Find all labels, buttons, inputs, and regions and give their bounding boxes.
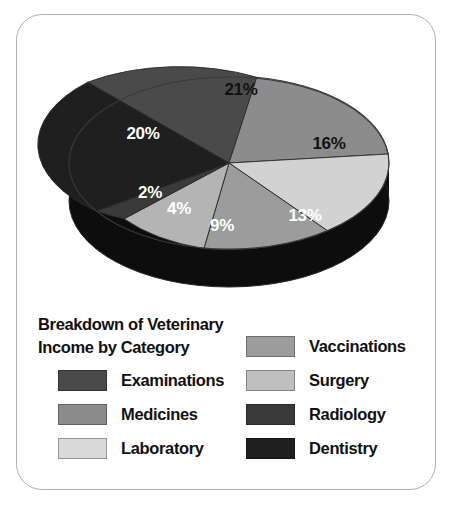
chart-title-line-2: Income by Category: [38, 336, 253, 359]
pie-label-examinations: 20%: [126, 124, 159, 143]
legend-item-laboratory[interactable]: Laboratory: [58, 431, 224, 465]
chart-title: Breakdown of Veterinary Income by Catego…: [38, 313, 253, 360]
pie-label-dentistry: 2%: [138, 183, 162, 202]
legend-swatch-examinations: [58, 370, 107, 391]
legend-label-medicines: Medicines: [121, 405, 198, 424]
legend-swatch-vaccinations: [246, 336, 295, 357]
legend-item-medicines[interactable]: Medicines: [58, 397, 224, 431]
legend-item-dentistry[interactable]: Dentistry: [246, 431, 406, 465]
pie-chart: 21% 16% 13% 9% 4% 2% 20%: [17, 15, 436, 305]
legend-item-radiology[interactable]: Radiology: [246, 397, 406, 431]
legend-label-laboratory: Laboratory: [121, 439, 204, 458]
legend-column-left: Examinations Medicines Laboratory: [58, 363, 224, 465]
legend-swatch-medicines: [58, 404, 107, 425]
pie-label-laboratory: 9%: [210, 216, 234, 235]
chart-title-line-1: Breakdown of Veterinary: [38, 313, 253, 336]
legend-label-radiology: Radiology: [309, 405, 386, 424]
legend-label-examinations: Examinations: [121, 371, 224, 390]
pie-chart-svg: 21% 16% 13% 9% 4% 2% 20%: [17, 15, 436, 305]
chart-legend: Breakdown of Veterinary Income by Catego…: [17, 307, 436, 489]
pie-label-medicines: 21%: [224, 80, 257, 99]
legend-label-dentistry: Dentistry: [309, 439, 377, 458]
pie-label-surgery: 16%: [312, 134, 345, 153]
legend-column-right: Vaccinations Surgery Radiology Dentistry: [246, 329, 406, 465]
legend-swatch-surgery: [246, 370, 295, 391]
legend-item-surgery[interactable]: Surgery: [246, 363, 406, 397]
legend-swatch-radiology: [246, 404, 295, 425]
legend-label-vaccinations: Vaccinations: [309, 337, 406, 356]
legend-item-examinations[interactable]: Examinations: [58, 363, 224, 397]
pie-label-vaccinations: 13%: [288, 206, 321, 225]
legend-swatch-dentistry: [246, 438, 295, 459]
legend-item-vaccinations[interactable]: Vaccinations: [246, 329, 406, 363]
legend-swatch-laboratory: [58, 438, 107, 459]
chart-card: 21% 16% 13% 9% 4% 2% 20% Breakdown of Ve…: [16, 14, 436, 490]
legend-label-surgery: Surgery: [309, 371, 369, 390]
pie-label-radiology: 4%: [167, 199, 191, 218]
